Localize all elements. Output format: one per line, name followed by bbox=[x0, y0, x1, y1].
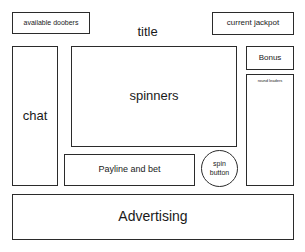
page-title: title bbox=[95, 20, 200, 42]
current-jackpot-label: current jackpot bbox=[227, 19, 279, 28]
advertising-panel[interactable]: Advertising bbox=[12, 194, 294, 240]
spinners-panel[interactable]: spinners bbox=[71, 46, 237, 147]
available-doobers-label: available doobers bbox=[24, 19, 79, 27]
payline-and-bet-label: Payline and bet bbox=[98, 165, 160, 175]
round-leaders-panel[interactable]: round leaders bbox=[246, 74, 294, 186]
wireframe-canvas: available doobers title current jackpot … bbox=[0, 0, 305, 252]
spin-button[interactable]: spin button bbox=[201, 150, 238, 187]
page-title-label: title bbox=[137, 24, 157, 39]
current-jackpot-panel[interactable]: current jackpot bbox=[212, 12, 294, 35]
spinners-label: spinners bbox=[129, 89, 178, 103]
available-doobers-panel[interactable]: available doobers bbox=[12, 12, 90, 34]
chat-panel[interactable]: chat bbox=[12, 46, 58, 186]
chat-label: chat bbox=[23, 109, 48, 123]
bonus-label: Bonus bbox=[259, 54, 282, 63]
spin-button-label-line2: button bbox=[210, 169, 229, 178]
bonus-panel[interactable]: Bonus bbox=[246, 46, 294, 70]
advertising-label: Advertising bbox=[118, 209, 187, 224]
round-leaders-label: round leaders bbox=[258, 79, 282, 83]
payline-and-bet-panel[interactable]: Payline and bet bbox=[64, 154, 195, 186]
spin-button-label-line1: spin bbox=[213, 160, 226, 169]
